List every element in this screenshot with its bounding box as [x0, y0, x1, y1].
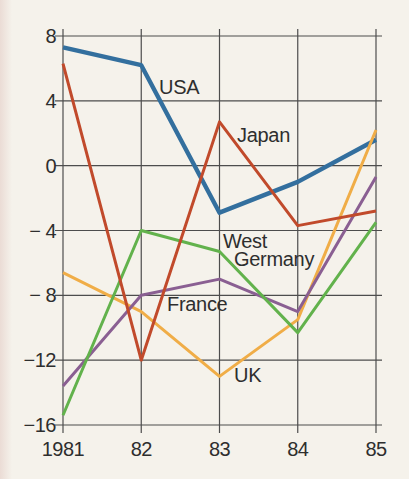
x-tick-label: 1981: [42, 438, 85, 460]
series-label-japan: Japan: [237, 124, 290, 146]
y-tick-label: − 4: [29, 220, 56, 242]
series-label-west-germany: Germany: [234, 248, 314, 270]
series-label-usa: USA: [159, 76, 200, 98]
series-label-france: France: [167, 293, 228, 315]
x-tick-label: 83: [209, 438, 231, 460]
y-tick-label: 4: [45, 90, 56, 112]
y-tick-label: 8: [45, 25, 56, 47]
x-tick-label: 82: [131, 438, 153, 460]
y-tick-label: −16: [24, 414, 57, 436]
line-chart: 840− 4− 8−12−16198182838485USAJapanWestG…: [0, 0, 409, 479]
x-tick-label: 84: [287, 438, 309, 460]
series-label-uk: UK: [234, 364, 262, 386]
y-tick-label: 0: [45, 155, 56, 177]
y-tick-label: −12: [24, 349, 57, 371]
scanned-chart-page: 840− 4− 8−12−16198182838485USAJapanWestG…: [0, 0, 409, 479]
y-tick-label: − 8: [29, 284, 56, 306]
x-tick-label: 85: [365, 438, 387, 460]
